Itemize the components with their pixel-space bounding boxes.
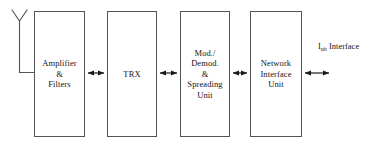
iub-interface-subscript: ub — [321, 46, 327, 52]
iub-interface-label: Iub Interface — [318, 41, 359, 51]
block-amplifier-filters-label: Amplifier & Filters — [42, 58, 76, 90]
block-mod-demod-spreading-unit: Mod./ Demod. & Spreading Unit — [180, 11, 230, 137]
antenna-icon — [12, 10, 34, 73]
block-amplifier-filters: Amplifier & Filters — [34, 11, 85, 137]
block-diagram: Amplifier & Filters TRX Mod./ Demod. & S… — [0, 0, 385, 147]
block-network-interface-unit: Network Interface Unit — [250, 11, 302, 137]
block-mod-demod-spreading-unit-label: Mod./ Demod. & Spreading Unit — [187, 48, 222, 101]
block-network-interface-unit-label: Network Interface Unit — [260, 58, 291, 90]
block-trx: TRX — [107, 11, 157, 137]
block-trx-label: TRX — [123, 69, 140, 80]
iub-interface-suffix: Interface — [327, 41, 359, 51]
